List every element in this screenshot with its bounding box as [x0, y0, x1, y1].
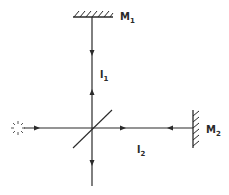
- arrow-right-icon: [34, 126, 40, 131]
- arm-l2-label: l2: [137, 144, 145, 158]
- arrow-down-icon: [90, 50, 95, 56]
- mirror-m2-label: M2: [206, 124, 221, 138]
- light-source-icon: [11, 121, 25, 135]
- mirror-m1: [73, 11, 113, 17]
- arrow-up-icon: [90, 89, 95, 95]
- mirror-m1-label: M1: [120, 11, 135, 25]
- mirror-m2: [193, 110, 199, 148]
- arrow-left-icon: [167, 126, 173, 131]
- interferometer-diagram: M1 M2 l1 l2: [0, 0, 229, 195]
- arm-l1-label: l1: [100, 69, 108, 83]
- arrow-right-icon: [120, 126, 126, 131]
- arrow-down-icon: [90, 160, 95, 166]
